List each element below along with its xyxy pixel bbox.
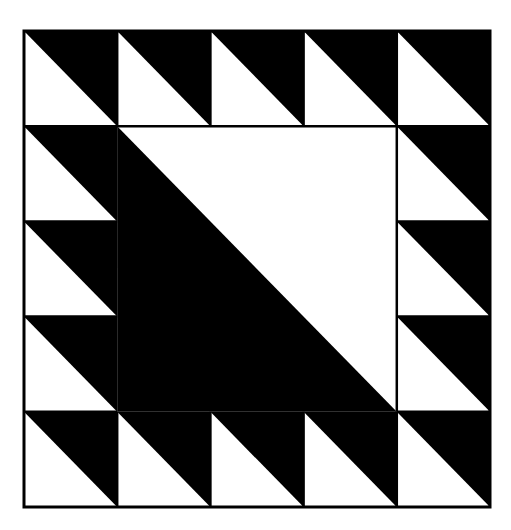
quilt-block-diagram	[0, 0, 511, 530]
